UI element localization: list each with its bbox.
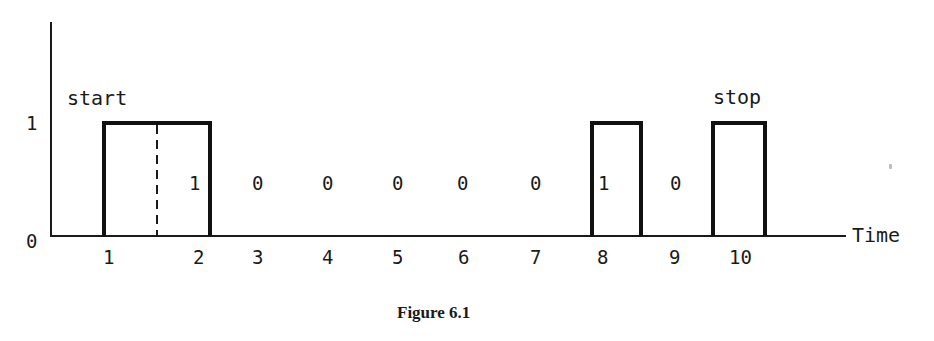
signal-timing-diagram: 1 0 start stop Time 1 0 0 0 0 0 1 0 1 2 … [0, 0, 934, 341]
x-tick-labels: 1 2 3 4 5 6 7 8 9 10 [103, 246, 752, 268]
x-axis-label-time: Time [852, 223, 900, 247]
stop-pulse [713, 123, 765, 236]
y-tick-0: 0 [26, 230, 37, 252]
x-tick: 2 [193, 246, 204, 268]
bit-label: 0 [530, 172, 541, 194]
bit-values: 1 0 0 0 0 0 1 0 [189, 172, 681, 194]
bit-label: 0 [670, 172, 681, 194]
bit-label: 1 [598, 172, 609, 194]
bit-label: 0 [252, 172, 263, 194]
stop-label: stop [713, 85, 761, 109]
y-tick-1: 1 [26, 112, 37, 134]
bit-label: 0 [392, 172, 403, 194]
bit-label: 0 [457, 172, 468, 194]
x-tick: 1 [103, 246, 114, 268]
x-tick: 10 [729, 246, 752, 268]
x-tick: 9 [669, 246, 680, 268]
x-tick: 3 [252, 246, 263, 268]
x-tick: 6 [458, 246, 469, 268]
bit-label: 1 [189, 172, 200, 194]
x-tick: 7 [530, 246, 541, 268]
figure-caption: Figure 6.1 [397, 303, 470, 322]
scan-speck [889, 164, 892, 169]
bit-label: 0 [322, 172, 333, 194]
x-tick: 4 [322, 246, 333, 268]
x-tick: 8 [597, 246, 608, 268]
start-label: start [67, 86, 127, 110]
x-tick: 5 [392, 246, 403, 268]
